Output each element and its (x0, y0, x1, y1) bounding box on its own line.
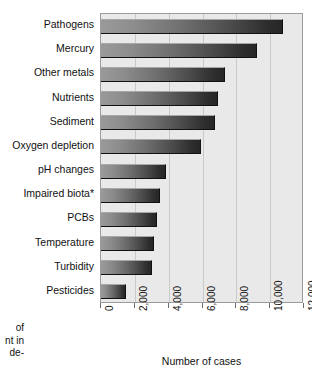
caption-fragment-line-3: de- (0, 347, 24, 360)
bar-row (101, 14, 302, 38)
y-axis-label-other-metals: Other metals (0, 67, 94, 78)
bar-row (101, 183, 302, 207)
x-tick-label-0: 0 (104, 305, 115, 311)
bar-pcbs (101, 212, 157, 227)
x-tick-label-12000: 12,000 (307, 280, 312, 311)
bar-oxygen-depletion (101, 139, 201, 154)
x-tick-label-4000: 4,000 (172, 286, 183, 311)
bar-turbidity (101, 260, 152, 275)
plot-inner (101, 14, 302, 302)
bar-sediment (101, 115, 215, 130)
y-axis-label-pcbs: PCBs (0, 212, 94, 223)
y-axis-label-pathogens: Pathogens (0, 19, 94, 30)
bar-row (101, 135, 302, 159)
bar-impaired-biota (101, 188, 160, 203)
y-axis-label-sediment: Sediment (0, 116, 94, 127)
bar-row (101, 232, 302, 256)
bar-mercury (101, 43, 257, 58)
bar-row (101, 159, 302, 183)
x-tick-12000 (303, 303, 304, 308)
bar-row (101, 280, 302, 303)
bar-row (101, 256, 302, 280)
bar-temperature (101, 236, 154, 251)
bar-row (101, 207, 302, 231)
bar-row (101, 111, 302, 135)
caption-fragment: of nt in de- (0, 322, 24, 360)
plot-area (100, 13, 303, 303)
x-axis-title: Number of cases (100, 355, 303, 367)
x-tick-8000 (235, 303, 236, 308)
bar-pesticides (101, 284, 126, 299)
x-tick-10000 (269, 303, 270, 308)
x-tick-label-6000: 6,000 (206, 286, 217, 311)
caption-fragment-line-2: nt in (0, 335, 24, 348)
x-tick-4000 (168, 303, 169, 308)
x-tick-6000 (202, 303, 203, 308)
bar-nutrients (101, 91, 218, 106)
y-axis-label-pesticides: Pesticides (0, 285, 94, 296)
bar-other-metals (101, 67, 225, 82)
bar-ph-changes (101, 164, 166, 179)
y-axis-label-mercury: Mercury (0, 43, 94, 54)
x-tick-label-8000: 8,000 (239, 286, 250, 311)
caption-fragment-line-1: of (0, 322, 24, 335)
y-axis-label-impaired-biota: Impaired biota* (0, 188, 94, 199)
bar-row (101, 62, 302, 86)
y-axis-label-turbidity: Turbidity (0, 261, 94, 272)
x-tick-0 (100, 303, 101, 308)
y-axis-label-nutrients: Nutrients (0, 92, 94, 103)
bar-row (101, 87, 302, 111)
x-tick-2000 (134, 303, 135, 308)
x-tick-label-10000: 10,000 (273, 280, 284, 311)
x-tick-label-2000: 2,000 (138, 286, 149, 311)
bar-pathogens (101, 19, 283, 34)
bar-chart-figure: PathogensMercuryOther metalsNutrientsSed… (0, 0, 312, 373)
y-axis-label-oxygen-depletion: Oxygen depletion (0, 140, 94, 151)
y-axis-label-ph-changes: pH changes (0, 164, 94, 175)
y-axis-label-temperature: Temperature (0, 237, 94, 248)
bar-row (101, 38, 302, 62)
